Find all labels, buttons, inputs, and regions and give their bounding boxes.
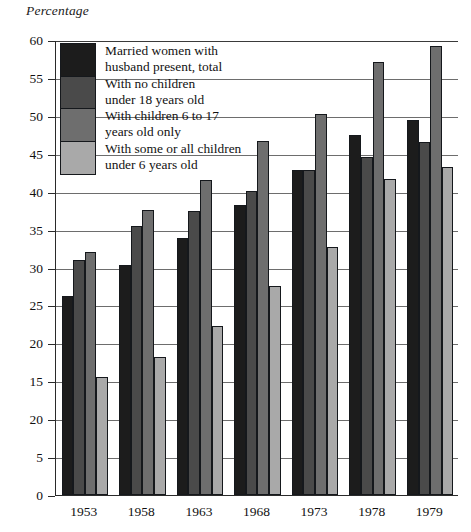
bar-group-1973 <box>292 41 338 495</box>
chart-legend: Married women with husband present, tota… <box>60 43 241 175</box>
bar-1978-series-3 <box>384 179 396 495</box>
bar-1958-series-2 <box>142 210 154 495</box>
y-tick-mark-55 <box>48 79 55 80</box>
x-tick-label-1953: 1953 <box>70 504 97 520</box>
bar-1958-series-0 <box>119 265 131 495</box>
y-tick-label-35: 35 <box>3 224 43 238</box>
legend-swatch-0 <box>61 44 95 77</box>
bar-1973-series-1 <box>303 170 315 495</box>
bar-1968-series-2 <box>257 141 269 495</box>
y-tick-label-30: 30 <box>3 262 43 276</box>
legend-swatch-3 <box>61 142 95 175</box>
y-tick-mark-30 <box>48 269 55 270</box>
legend-labels: Married women with husband present, tota… <box>105 43 241 175</box>
legend-label-2: With children 6 to 17 years old only <box>105 108 241 141</box>
bar-1953-series-0 <box>62 296 74 495</box>
bar-1978-series-0 <box>349 135 361 495</box>
x-tick-label-1978: 1978 <box>358 504 385 520</box>
y-tick-mark-50 <box>48 117 55 118</box>
y-tick-mark-60 <box>48 41 55 42</box>
x-tick-label-1979: 1979 <box>416 504 443 520</box>
bar-chart: Percentage 605550454035302520152050 1953… <box>0 0 471 532</box>
bar-1953-series-1 <box>73 260 85 495</box>
y-tick-label-20: 20 <box>3 338 43 352</box>
x-tick-label-1968: 1968 <box>243 504 270 520</box>
bar-1979-series-0 <box>407 120 419 495</box>
bar-1958-series-1 <box>131 226 143 495</box>
bar-1963-series-1 <box>188 211 200 495</box>
y-tick-mark-40 <box>48 193 55 194</box>
bar-1953-series-2 <box>85 252 97 495</box>
bar-1953-series-3 <box>96 377 108 495</box>
y-tick-mark-10 <box>48 420 55 421</box>
y-tick-mark-20 <box>48 344 55 345</box>
y-tick-mark-15 <box>48 382 55 383</box>
bar-1973-series-3 <box>327 247 339 495</box>
legend-label-0: Married women with husband present, tota… <box>105 43 241 76</box>
bar-1968-series-1 <box>246 191 258 495</box>
bar-1979-series-2 <box>430 46 442 495</box>
bar-1978-series-2 <box>373 62 385 495</box>
y-tick-label-0: 0 <box>3 489 43 503</box>
legend-swatch-1 <box>61 77 95 110</box>
y-tick-label-60: 60 <box>3 34 43 48</box>
y-tick-mark-25 <box>48 306 55 307</box>
y-tick-mark-5 <box>48 458 55 459</box>
bar-1963-series-0 <box>177 238 189 495</box>
x-tick-label-1973: 1973 <box>301 504 328 520</box>
bar-group-1978 <box>349 41 395 495</box>
bar-1963-series-2 <box>200 180 212 495</box>
legend-swatch-2 <box>61 109 95 142</box>
y-tick-label-5: 5 <box>3 451 43 465</box>
bar-1979-series-3 <box>442 167 454 495</box>
bar-group-1979 <box>407 41 453 495</box>
bar-1968-series-3 <box>269 286 281 495</box>
legend-label-3: With some or all children under 6 years … <box>105 141 241 174</box>
y-tick-label-40: 40 <box>3 186 43 200</box>
bar-1979-series-1 <box>419 142 431 495</box>
y-tick-mark-35 <box>48 231 55 232</box>
x-tick-label-1958: 1958 <box>128 504 155 520</box>
y-tick-label-10: 20 <box>3 413 43 427</box>
bar-1968-series-0 <box>234 205 246 495</box>
y-tick-label-45: 45 <box>3 148 43 162</box>
bar-1963-series-3 <box>212 326 224 495</box>
legend-label-1: With no children under 18 years old <box>105 76 241 109</box>
bar-1973-series-0 <box>292 170 304 495</box>
bar-1973-series-2 <box>315 114 327 495</box>
bar-1978-series-1 <box>361 157 373 495</box>
bar-1958-series-3 <box>154 357 166 495</box>
legend-swatches <box>60 43 96 175</box>
y-tick-label-25: 25 <box>3 300 43 314</box>
y-tick-mark-0 <box>48 496 55 497</box>
y-tick-label-55: 55 <box>3 72 43 86</box>
y-axis-title: Percentage <box>26 3 89 19</box>
x-tick-label-1963: 1963 <box>185 504 212 520</box>
y-tick-label-50: 50 <box>3 110 43 124</box>
y-tick-mark-45 <box>48 155 55 156</box>
y-tick-label-15: 15 <box>3 376 43 390</box>
